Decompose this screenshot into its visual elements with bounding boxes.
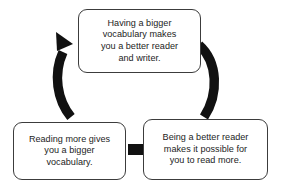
node-top-box: Having a bigger vocabulary makes you a b… <box>78 9 201 73</box>
left-arc-connector <box>56 32 73 117</box>
node-left-box: Reading more gives you a bigger vocabula… <box>13 122 126 180</box>
cycle-diagram: Having a bigger vocabulary makes you a b… <box>0 0 281 193</box>
bottom-link-connector <box>128 144 144 155</box>
right-arc-connector <box>199 45 214 117</box>
node-left-label: Reading more gives you a bigger vocabula… <box>23 134 116 169</box>
node-right-box: Being a better reader makes it possible … <box>143 119 268 180</box>
node-top-label: Having a bigger vocabulary makes you a b… <box>95 18 184 64</box>
node-right-label: Being a better reader makes it possible … <box>157 132 255 167</box>
